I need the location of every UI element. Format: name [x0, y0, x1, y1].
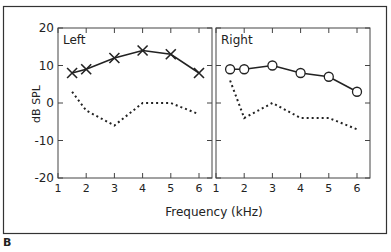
x-tick-label: 5: [167, 182, 174, 195]
x-tick-label: 5: [325, 182, 332, 195]
circle-marker: [353, 87, 362, 96]
panel-title: Left: [63, 33, 86, 47]
x-tick-label: 1: [213, 182, 220, 195]
y-tick-label: 20: [39, 21, 54, 35]
x-tick-label: 6: [354, 182, 361, 195]
circle-marker: [324, 72, 333, 81]
y-tick-label: 10: [39, 59, 54, 73]
x-tick-label: 3: [269, 182, 276, 195]
x-tick-label: 2: [241, 182, 248, 195]
figure: 123456-20-1001020Left123456Right dB SPL …: [0, 0, 391, 252]
circle-marker: [296, 69, 305, 78]
x-tick-label: 4: [297, 182, 304, 195]
circle-marker: [268, 61, 277, 70]
circle-marker: [240, 65, 249, 74]
x-axis-label: Frequency (kHz): [165, 205, 262, 219]
x-tick-label: 4: [139, 182, 146, 195]
figure-frame: [4, 7, 387, 234]
x-tick-label: 1: [55, 182, 62, 195]
y-tick-label: -20: [34, 171, 54, 185]
y-axis-label: dB SPL: [30, 84, 43, 123]
x-tick-label: 3: [111, 182, 118, 195]
x-tick-label: 6: [196, 182, 203, 195]
panel-title: Right: [221, 33, 253, 47]
y-tick-label: -10: [34, 134, 54, 148]
y-tick-label: 0: [46, 96, 54, 110]
circle-marker: [226, 65, 235, 74]
panel-label: B: [3, 236, 11, 249]
x-tick-label: 2: [83, 182, 90, 195]
